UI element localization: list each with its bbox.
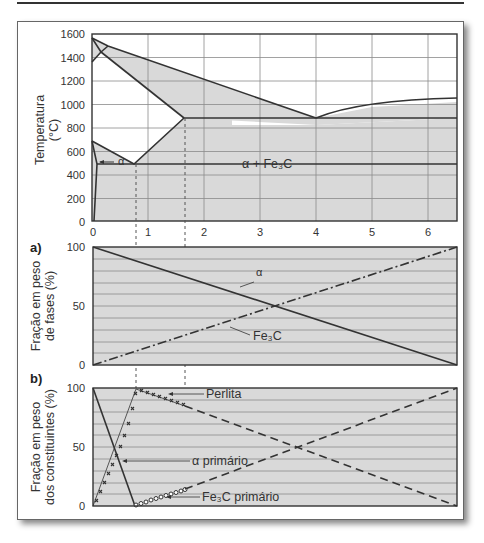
svg-text:de fases (%): de fases (%) [43,271,57,341]
svg-text:b): b) [30,371,42,386]
svg-text:1400: 1400 [61,52,85,64]
svg-text:1000: 1000 [61,99,85,111]
svg-text:1200: 1200 [61,75,85,87]
svg-text:0: 0 [79,500,85,512]
svg-text:α primário: α primário [192,454,248,468]
svg-text:0: 0 [90,226,96,238]
svg-text:Fe₃C: Fe₃C [253,329,282,343]
svg-text:1: 1 [145,226,151,238]
svg-text:Fe₃C primário: Fe₃C primário [202,490,279,504]
svg-text:Fração em peso: Fração em peso [29,261,43,351]
y-axis-label: Temperatura [33,95,47,165]
svg-text:50: 50 [73,300,85,312]
svg-text:200: 200 [67,193,85,205]
svg-text:3: 3 [257,226,263,238]
svg-text:a): a) [30,240,42,255]
svg-text:400: 400 [67,169,85,181]
svg-text:600: 600 [67,146,85,158]
alpha-fe3c-label: α + Fe₃C [242,157,292,171]
svg-text:50: 50 [73,441,85,453]
figure-svg: 1600 1400 1200 1000 800 600 400 200 0 0 … [0,0,484,543]
svg-text:4: 4 [313,226,319,238]
constituent-fractions-chart: b) 100 50 0 [29,371,457,512]
svg-text:100: 100 [67,241,85,253]
svg-text:Perlita: Perlita [206,387,241,401]
svg-text:0: 0 [79,216,85,228]
svg-text:800: 800 [67,122,85,134]
svg-text:(°C): (°C) [47,119,61,141]
svg-text:dos constituintes (%): dos constituintes (%) [43,389,57,505]
svg-text:Fração em peso: Fração em peso [29,402,43,492]
svg-text:α: α [256,266,263,278]
phase-fractions-chart: a) 100 50 0 Fração em peso de fases (%) … [29,240,457,371]
phase-diagram: 1600 1400 1200 1000 800 600 400 200 0 0 … [33,28,457,238]
alpha-label: α [118,155,125,167]
svg-text:0: 0 [79,359,85,371]
svg-text:100: 100 [67,382,85,394]
svg-text:1600: 1600 [61,28,85,40]
svg-text:5: 5 [369,226,375,238]
svg-text:2: 2 [201,226,207,238]
svg-text:6: 6 [425,226,431,238]
